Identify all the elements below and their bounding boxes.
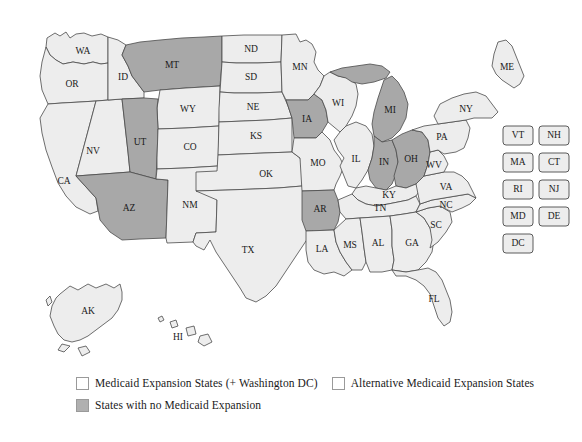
inset-box-RI[interactable]: RI xyxy=(503,180,533,199)
us-states-map: WA OR CA NV ID MT WY UT xyxy=(0,0,582,372)
legend-row-bottom: States with no Medicaid Expansion xyxy=(0,394,582,416)
inset-shape-NH xyxy=(539,126,569,145)
inset-box-VT[interactable]: VT xyxy=(503,126,533,145)
legend-item-alternative[interactable]: Alternative Medicaid Expansion States xyxy=(332,377,535,390)
inset-box-MA[interactable]: MA xyxy=(503,153,533,172)
state-AK[interactable]: AK xyxy=(46,284,122,356)
state-shape-CO xyxy=(157,126,219,169)
legend-item-none[interactable]: States with no Medicaid Expansion xyxy=(76,399,261,412)
state-NE[interactable]: NE xyxy=(219,92,292,122)
inset-shape-MA xyxy=(503,153,533,172)
state-shape-KS xyxy=(218,118,292,155)
state-shape-NE xyxy=(219,92,292,122)
state-HI[interactable]: HI xyxy=(158,316,212,346)
inset-box-DE[interactable]: DE xyxy=(539,207,569,226)
inset-shape-DE xyxy=(539,207,569,226)
figure-caption xyxy=(6,430,566,442)
state-shape-FL xyxy=(392,268,452,326)
state-ND[interactable]: ND xyxy=(222,35,282,63)
legend-item-expansion[interactable]: Medicaid Expansion States (+ Washington … xyxy=(76,377,318,390)
legend-swatch-none-icon xyxy=(76,399,89,412)
state-shape-NY xyxy=(434,92,498,124)
legend-label-none: States with no Medicaid Expansion xyxy=(95,399,261,411)
state-WY[interactable]: WY xyxy=(157,86,220,129)
state-NY[interactable]: NY xyxy=(434,92,498,124)
state-shape-ND xyxy=(222,35,282,63)
legend-swatch-alternative-icon xyxy=(332,377,345,390)
state-shape-ME xyxy=(492,40,524,88)
state-IL[interactable]: IL xyxy=(334,122,374,188)
legend-row-top: Medicaid Expansion States (+ Washington … xyxy=(0,372,582,394)
medicaid-expansion-map-figure: WA OR CA NV ID MT WY UT xyxy=(0,0,582,442)
state-shape-HI xyxy=(158,316,212,346)
state-shape-AK xyxy=(46,284,122,356)
inset-shape-MD xyxy=(503,207,533,226)
legend-swatch-expansion-icon xyxy=(76,377,89,390)
inset-shape-VT xyxy=(503,126,533,145)
state-label-HI: HI xyxy=(173,332,183,342)
state-KS[interactable]: KS xyxy=(218,118,292,155)
map-legend: Medicaid Expansion States (+ Washington … xyxy=(0,372,582,420)
inset-box-NJ[interactable]: NJ xyxy=(539,180,569,199)
inset-box-CT[interactable]: CT xyxy=(539,153,569,172)
inset-shape-RI xyxy=(503,180,533,199)
inset-box-NH[interactable]: NH xyxy=(539,126,569,145)
state-shape-IL xyxy=(334,122,374,188)
state-shape-AR xyxy=(302,190,340,231)
state-FL[interactable]: FL xyxy=(392,268,452,326)
inset-shape-CT xyxy=(539,153,569,172)
inset-box-MD[interactable]: MD xyxy=(503,207,533,226)
inset-shape-DC xyxy=(503,234,533,253)
state-SD[interactable]: SD xyxy=(220,62,282,93)
state-ME[interactable]: ME xyxy=(492,40,524,88)
legend-label-alternative: Alternative Medicaid Expansion States xyxy=(351,377,535,389)
state-CO[interactable]: CO xyxy=(157,126,219,169)
state-shape-SD xyxy=(220,62,282,93)
inset-box-DC[interactable]: DC xyxy=(503,234,533,253)
inset-shape-NJ xyxy=(539,180,569,199)
state-shape-WY xyxy=(157,86,220,129)
state-AR[interactable]: AR xyxy=(302,190,340,231)
legend-label-expansion: Medicaid Expansion States (+ Washington … xyxy=(95,377,318,389)
